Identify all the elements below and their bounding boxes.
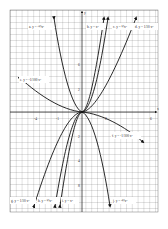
- curve-label-a: a. y = -½x³: [29, 25, 44, 29]
- x-axis-label: x: [157, 107, 159, 111]
- curve-label-j: j. y = -½x³: [112, 199, 127, 203]
- curve-label-i: i. y = x³: [62, 199, 73, 203]
- cubic-graph-figure: y x -4 -1 2 6 6 2 2 4 8 a. y = -½x³ b. y…: [0, 0, 168, 229]
- y-tick: 2: [78, 135, 80, 139]
- curve-label-f: f. y = -1/100 x³: [112, 134, 133, 138]
- curve-label-h: h. y = ½x³: [38, 199, 52, 203]
- y-tick: 4: [78, 159, 80, 163]
- curve-label-g: g. y = 1/10 x³: [11, 199, 29, 203]
- curve-label-b: b. y = x³: [87, 25, 98, 29]
- x-tick: 6: [150, 117, 152, 121]
- curve-label-d: d. y = 1/10 x³: [135, 25, 153, 29]
- x-tick: -1: [56, 117, 59, 121]
- x-tick: -4: [34, 117, 37, 121]
- y-tick: 8: [78, 184, 80, 188]
- y-tick: 6: [78, 63, 80, 67]
- curve-label-c: c. y = ½x³: [113, 25, 127, 29]
- curve-label-e: e. y = -1/100 x³: [20, 78, 41, 82]
- y-axis-label: y: [84, 11, 86, 15]
- y-tick: 2: [78, 88, 80, 92]
